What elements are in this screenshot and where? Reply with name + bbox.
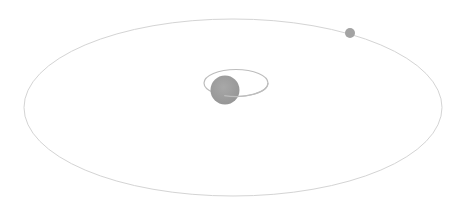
orbiting-moon [345, 28, 355, 38]
central-planet [211, 76, 240, 105]
outer-orbit-path [24, 19, 442, 196]
orbit-diagram [0, 0, 461, 208]
